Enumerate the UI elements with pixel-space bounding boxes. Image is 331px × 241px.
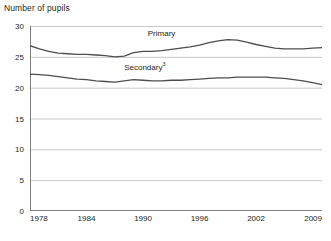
gridlines [30, 27, 322, 181]
x-tick-label: 1978 [30, 214, 48, 223]
y-tick-label: 15 [2, 114, 24, 123]
y-tick-label: 30 [2, 22, 24, 31]
series-line-secondary [30, 74, 322, 84]
y-tick-label: 20 [2, 83, 24, 92]
series-label-primary: Primary [148, 29, 176, 38]
series-label-secondary: Secondary3 [124, 63, 165, 72]
x-tick-label: 1984 [78, 214, 96, 223]
chart-container: Number of pupils 051015202530 1978198419… [0, 0, 331, 241]
plot-svg [30, 26, 322, 211]
plot-area [30, 26, 322, 211]
x-tick-label: 1996 [191, 214, 209, 223]
x-tick-label: 2009 [304, 214, 322, 223]
x-tick-label: 2002 [247, 214, 265, 223]
series-line-primary [30, 40, 322, 57]
y-tick-label: 5 [2, 176, 24, 185]
data-series-lines [30, 40, 322, 85]
x-tick-label: 1990 [134, 214, 152, 223]
y-tick-label: 0 [2, 207, 24, 216]
y-tick-label: 10 [2, 145, 24, 154]
chart-title: Number of pupils [4, 3, 70, 13]
footnote-marker: 3 [162, 61, 165, 67]
y-tick-label: 25 [2, 52, 24, 61]
